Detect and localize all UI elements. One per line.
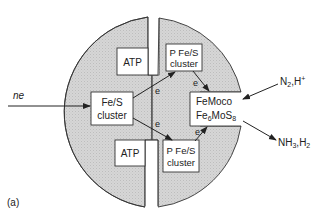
figure-label: (a) — [7, 197, 19, 208]
fes-cluster-line1: Fe/S — [101, 97, 122, 108]
gap-bottom — [146, 141, 158, 211]
e-label-1: e — [155, 86, 160, 96]
e-label-2: e — [155, 119, 160, 129]
fes-cluster-line2: cluster — [97, 110, 127, 121]
atp-top-label: ATP — [123, 57, 142, 68]
product-arrow — [243, 121, 276, 140]
femoco-line2: Fe6MoS8 — [196, 110, 236, 122]
substrate-arrow — [243, 84, 278, 99]
gap-top — [149, 14, 159, 75]
p-cluster-top-line2: cluster — [170, 58, 198, 69]
e-label-4: e — [195, 127, 200, 137]
p-cluster-bottom-line1: P Fe/S — [167, 145, 196, 156]
p-cluster-top-line1: P Fe/S — [170, 47, 199, 58]
products-label: NH3,H2 — [278, 137, 310, 149]
femoco-line1: FeMoco — [196, 96, 233, 107]
p-cluster-bottom-line2: cluster — [167, 157, 195, 168]
nitrogenase-diagram: ATP ATP Fe/S cluster P Fe/S cluster P Fe… — [0, 0, 325, 219]
e-label-3: e — [193, 78, 198, 88]
ne-label: ne — [13, 90, 25, 101]
substrates-label: N2,H+ — [280, 75, 305, 88]
atp-bottom-label: ATP — [121, 148, 140, 159]
